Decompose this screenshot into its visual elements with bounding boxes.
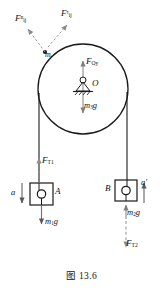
physics-figure: Fnij Fτij mi FOy O m3g FT1 a A m1g a′ B …: [0, 0, 163, 295]
axle-center-label: O: [92, 79, 99, 88]
accel-a-label: a: [11, 188, 15, 197]
tension-b-label: FT2: [126, 239, 138, 249]
pulley-weight-label: m3g: [84, 101, 97, 111]
tangential-force-arrow: [48, 25, 67, 47]
figure-canvas: [0, 0, 163, 295]
figure-caption: 图 13.6: [0, 268, 163, 282]
accel-b-label: a′: [141, 178, 147, 187]
axle-force-label: FOy: [86, 57, 98, 67]
block-b-hole: [122, 186, 130, 194]
block-a-label: A: [55, 187, 61, 196]
weight-a-label: m1g: [45, 217, 58, 227]
weight-b-label: m2g: [127, 208, 140, 218]
block-a-hole: [37, 190, 45, 198]
tangential-force-label: Fτij: [61, 9, 72, 19]
tension-a-label: FT1: [42, 156, 54, 166]
block-b-label: B: [105, 184, 111, 193]
normal-force-label: Fnij: [15, 14, 26, 24]
rim-mass-label: mi: [45, 51, 52, 60]
normal-force-arrow: [28, 29, 45, 52]
